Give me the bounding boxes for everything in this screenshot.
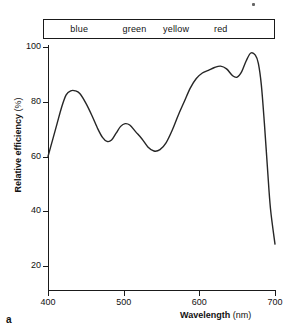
- series-line-relative-efficiency: [48, 53, 275, 244]
- x-axis-title-unit: (nm): [233, 310, 252, 320]
- panel-letter: a: [6, 314, 12, 325]
- x-axis-title: Wavelength (nm): [180, 310, 251, 320]
- plot-curve-layer: [0, 0, 299, 331]
- y-axis-title-unit: (%): [13, 97, 23, 111]
- x-axis-title-text: Wavelength: [180, 310, 230, 320]
- y-axis-title: Relative efficiency (%): [13, 75, 23, 215]
- y-axis-title-text: Relative efficiency: [13, 114, 23, 193]
- figure-panel-a: blue green yellow red 20406080100 400500…: [0, 0, 299, 331]
